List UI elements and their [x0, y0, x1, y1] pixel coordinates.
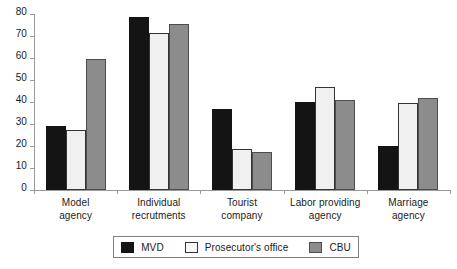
x-axis-tick-mark [284, 190, 285, 194]
category-label-line1: Tourist [200, 196, 283, 209]
bar [149, 33, 169, 190]
legend-item: Prosecutor's office [185, 242, 289, 253]
category-label-line2: company [200, 209, 283, 222]
category-label-line1: Marriage [367, 196, 450, 209]
category-label-line2: agency [367, 209, 450, 222]
black-swatch [121, 242, 134, 253]
y-axis-tick-label: 20 [16, 139, 27, 149]
category-label-line1: Labor providing [284, 196, 367, 209]
y-axis-tick-label: 50 [16, 73, 27, 83]
legend-item-label: Prosecutor's office [205, 242, 289, 253]
plot-area [34, 14, 450, 190]
x-axis-category-label: Touristcompany [200, 196, 283, 222]
x-axis-tick-mark [450, 190, 451, 194]
bar-chart: 80706050403020100 ModelagencyIndividualr… [0, 0, 457, 269]
y-axis-tick-label: 60 [16, 51, 27, 61]
bar [295, 102, 315, 190]
y-axis-tick-label: 0 [21, 183, 27, 193]
bar [378, 146, 398, 190]
legend-item-label: CBU [329, 242, 350, 253]
y-axis-tick-label: 80 [16, 7, 27, 17]
bar [212, 109, 232, 190]
x-axis-category-label: Labor providingagency [284, 196, 367, 222]
category-label-line2: agency [34, 209, 117, 222]
category-label-line1: Model [34, 196, 117, 209]
category-label-line1: Individual [117, 196, 200, 209]
category-label-line2: recrutments [117, 209, 200, 222]
x-axis-line [34, 190, 450, 191]
bar [86, 59, 106, 190]
bar [46, 126, 66, 190]
bar [335, 100, 355, 190]
y-axis-tick-label: 70 [16, 29, 27, 39]
bar [315, 87, 335, 190]
x-axis-category-label: Individualrecrutments [117, 196, 200, 222]
bar [418, 98, 438, 190]
chart-legend: MVDProsecutor's officeCBU [113, 236, 359, 258]
bar [232, 149, 252, 190]
gray-swatch [309, 242, 322, 253]
legend-item: MVD [121, 242, 164, 253]
x-axis-tick-mark [200, 190, 201, 194]
y-axis-tick-label: 30 [16, 117, 27, 127]
bar [169, 24, 189, 190]
y-axis-tick-label: 40 [16, 95, 27, 105]
x-axis-category-label: Modelagency [34, 196, 117, 222]
bar [129, 17, 149, 190]
bar [66, 130, 86, 191]
x-axis-tick-mark [367, 190, 368, 194]
bar [252, 152, 272, 191]
white-swatch [185, 242, 198, 253]
y-axis-tick-label: 10 [16, 161, 27, 171]
x-axis-category-label: Marriageagency [367, 196, 450, 222]
bar [398, 103, 418, 190]
category-label-line2: agency [284, 209, 367, 222]
x-axis-tick-mark [34, 190, 35, 194]
legend-item: CBU [309, 242, 350, 253]
legend-item-label: MVD [141, 242, 164, 253]
x-axis-tick-mark [117, 190, 118, 194]
